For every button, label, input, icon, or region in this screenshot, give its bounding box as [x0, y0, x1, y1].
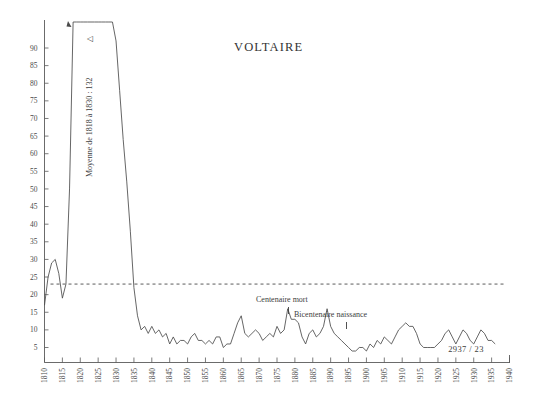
y-tick-label: 15	[30, 308, 38, 317]
y-tick-label: 85	[30, 61, 38, 70]
x-tick-label: 1930	[470, 368, 479, 383]
x-tick-label: 1830	[112, 368, 121, 383]
x-tick-label: 1870	[255, 368, 264, 383]
x-tick-label: 1810	[40, 368, 49, 383]
y-tick-label: 30	[30, 255, 38, 264]
x-tick-label: 1890	[326, 368, 335, 383]
x-tick-label: 1815	[58, 368, 67, 383]
voltaire-line-chart: VOLTAIRE 5101520253035404550556065707580…	[0, 0, 534, 417]
y-tick-label: 20	[30, 290, 38, 299]
x-tick-label: 1900	[362, 368, 371, 383]
x-tick-label: 1835	[130, 368, 139, 383]
mean-annotation-label: Moyenne de 1818 à 1830 : 132	[85, 77, 94, 177]
x-tick-label: 1840	[148, 368, 157, 383]
off-scale-arrow-icon	[67, 21, 72, 27]
mean-annotation-group: Moyenne de 1818 à 1830 : 132 △	[85, 35, 94, 177]
y-tick-label: 90	[30, 44, 38, 53]
triangle-marker-icon: △	[85, 35, 94, 42]
x-tick-label: 1940	[505, 368, 514, 383]
y-tick-label: 80	[30, 79, 38, 88]
x-tick-label: 1865	[237, 368, 246, 383]
x-tick-label: 1935	[487, 368, 496, 383]
x-tick-label: 1920	[434, 368, 443, 383]
y-tick-label: 35	[30, 237, 38, 246]
x-tick-label: 1910	[398, 368, 407, 383]
y-tick-label: 45	[30, 202, 38, 211]
x-axis-ticks: 1810181518201825183018351840184518501855…	[40, 358, 514, 384]
y-tick-label: 50	[30, 185, 38, 194]
x-tick-label: 1845	[165, 368, 174, 383]
x-tick-label: 1905	[380, 368, 389, 383]
annotation-bicentenaire-naissance-label: Bicentenaire naissance	[294, 310, 368, 319]
x-tick-label: 1875	[273, 368, 282, 383]
annotation-centenaire-mort-label: Centenaire mort	[256, 295, 309, 304]
chart-title: VOLTAIRE	[234, 40, 303, 54]
axes	[45, 20, 511, 363]
x-tick-label: 1880	[291, 368, 300, 383]
y-tick-label: 60	[30, 149, 38, 158]
y-tick-label: 55	[30, 167, 38, 176]
x-tick-label: 1855	[201, 368, 210, 383]
x-tick-label: 1850	[183, 368, 192, 383]
x-tick-label: 1825	[94, 368, 103, 383]
y-tick-label: 70	[30, 114, 38, 123]
y-tick-label: 25	[30, 273, 38, 282]
x-tick-label: 1895	[344, 368, 353, 383]
x-tick-label: 1915	[416, 368, 425, 383]
y-tick-label: 5	[34, 343, 38, 352]
x-tick-label: 1885	[309, 368, 318, 383]
y-tick-label: 40	[30, 220, 38, 229]
corner-note: 2937 / 23	[448, 344, 484, 354]
y-axis-ticks: 51015202530354045505560657075808590	[30, 44, 49, 353]
x-tick-label: 1860	[219, 368, 228, 383]
y-tick-label: 65	[30, 132, 38, 141]
chart-container: VOLTAIRE 5101520253035404550556065707580…	[0, 0, 534, 417]
y-tick-label: 10	[30, 325, 38, 334]
x-tick-label: 1925	[452, 368, 461, 383]
y-tick-label: 75	[30, 96, 38, 105]
x-tick-label: 1820	[76, 368, 85, 383]
